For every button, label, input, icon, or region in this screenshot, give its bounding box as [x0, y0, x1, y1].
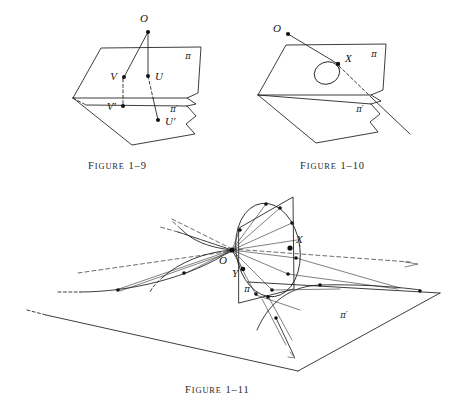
figure-1-10-point-X — [336, 62, 340, 66]
figure-1-11-asymptote-lines — [78, 219, 418, 273]
figure-1-11-left-rays — [116, 250, 232, 291]
figure-1-9-plane-pi — [73, 47, 201, 106]
figure-1-11-cone-far-nappe — [160, 221, 232, 250]
figure-1-9-label-O: O — [140, 12, 148, 24]
figure-1-9-label-V: V — [110, 70, 118, 82]
figure-1-10-caption: FIGURE 1–10 — [300, 160, 365, 171]
figure-1-10-plane-pi — [258, 44, 386, 104]
figure-page: O V U V′ U′ π π′ — [0, 0, 462, 409]
figure-1-9-label-V-prime: V′ — [107, 100, 117, 112]
figure-1-10-group: O X π π′ — [258, 22, 410, 143]
figures-svg: O V U V′ U′ π π′ — [0, 0, 462, 409]
figure-1-11-point-O — [229, 247, 234, 252]
figure-1-9-label-pi: π — [184, 51, 191, 61]
figure-1-9-caption-word: FIGURE — [88, 162, 125, 171]
figure-1-10-label-pi: π — [370, 49, 377, 59]
figure-1-10-plane-pi-prime — [258, 95, 380, 143]
figure-1-11-left-branch — [58, 250, 232, 292]
figure-1-9-point-V — [122, 75, 126, 79]
figure-1-9-point-V-prime — [121, 104, 125, 108]
figure-1-11-caption-word: FIGURE — [185, 386, 222, 395]
figure-1-9-point-U-prime — [156, 118, 160, 122]
figure-1-11-right-branch — [257, 285, 420, 330]
figure-1-11-label-X: X — [295, 233, 304, 245]
figure-1-9-caption-number: 1–9 — [128, 160, 146, 171]
figure-1-11-caption-number: 1–11 — [225, 384, 249, 395]
figure-1-10-caption-number: 1–10 — [340, 160, 365, 171]
figure-1-9-point-U — [146, 74, 150, 78]
figure-1-11-group: O X Y π π′ — [27, 197, 440, 371]
figure-1-11-label-pi-prime: π′ — [339, 310, 348, 320]
figure-1-9-point-O — [146, 30, 150, 34]
figure-1-10-label-O: O — [273, 22, 281, 34]
figure-1-11-plane-pi-prime — [27, 282, 440, 371]
figure-1-11-label-O: O — [219, 254, 227, 266]
figure-1-9-label-pi-prime: π′ — [169, 104, 178, 114]
figure-1-10-ray — [288, 34, 410, 134]
figure-1-11-extended-generators — [256, 258, 400, 358]
figure-1-10-label-pi-prime: π′ — [355, 104, 364, 114]
figure-1-10-point-O — [286, 32, 290, 36]
figure-1-11-caption: FIGURE 1–11 — [185, 384, 250, 395]
figure-1-11-point-X — [287, 245, 292, 250]
figure-1-9-label-U: U — [155, 70, 164, 82]
figure-1-9-label-U-prime: U′ — [165, 115, 176, 127]
figure-1-9-group: O V U V′ U′ π π′ — [73, 12, 201, 145]
figure-1-10-label-X: X — [344, 52, 353, 64]
figure-1-10-caption-word: FIGURE — [300, 162, 337, 171]
figure-1-9-caption: FIGURE 1–9 — [88, 160, 147, 171]
figure-1-11-label-pi: π — [243, 284, 250, 294]
figure-1-9-rays — [123, 32, 158, 120]
